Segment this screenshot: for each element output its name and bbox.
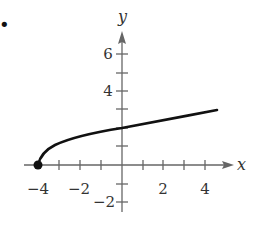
x-tick-label: 4 <box>200 180 210 198</box>
x-tick-label: −4 <box>27 180 49 198</box>
y-axis: y 6 4 −2 <box>93 7 128 212</box>
start-point-marker <box>34 161 43 170</box>
function-graph: x −4 −2 2 4 y 6 4 −2 <box>0 0 264 230</box>
x-tick-label: 2 <box>158 180 168 198</box>
y-tick-label: 6 <box>103 45 113 63</box>
sqrt-curve <box>38 110 217 165</box>
x-axis: x −4 −2 2 4 <box>24 155 246 198</box>
x-tick-label: −2 <box>68 180 90 198</box>
x-axis-label: x <box>237 155 246 174</box>
y-tick-label: −2 <box>93 193 115 211</box>
y-tick-label: 4 <box>103 82 113 100</box>
y-axis-label: y <box>117 7 128 26</box>
